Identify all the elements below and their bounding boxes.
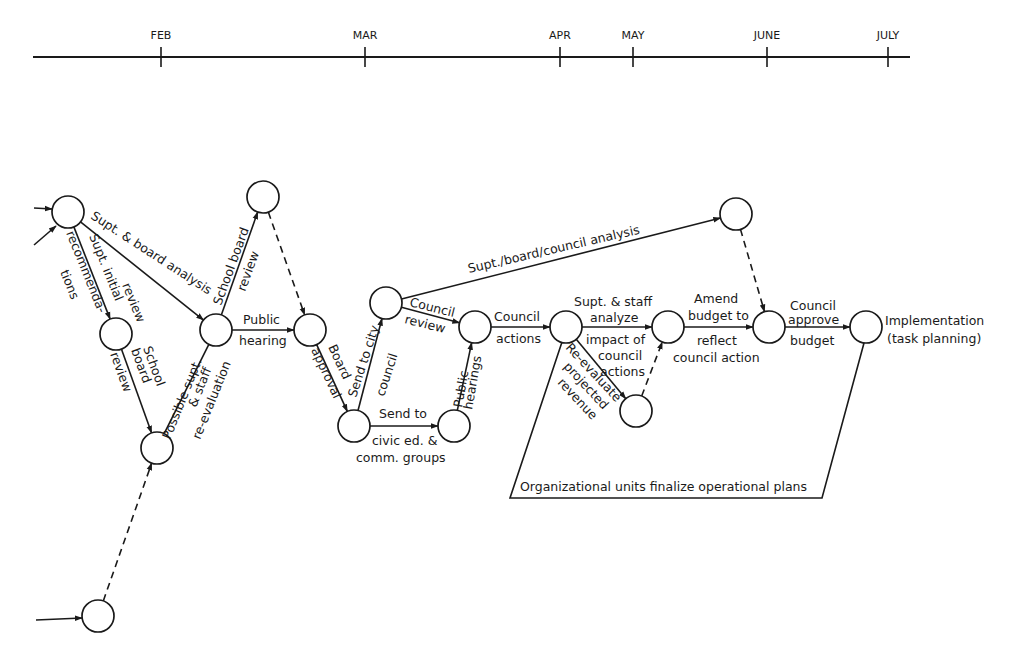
event-node-n10 [438,410,470,442]
label-impact-of: impact of [586,332,646,347]
event-node-n9 [370,287,402,319]
activity-edge [402,218,721,299]
edge-labels: Supt. & board analysis Supt. initial rev… [57,208,984,494]
dummy-activity-edge [268,212,304,315]
month-label: MAY [622,29,645,42]
label-council-actions-2: actions [496,331,541,346]
event-node-n7 [294,314,326,346]
dummy-activity-edge [103,463,151,601]
org-units-path [510,342,864,498]
incoming-arrow [34,226,56,245]
dummy-activity-edge [740,229,764,311]
event-node-n13 [720,198,752,230]
event-node-n8 [338,410,370,442]
month-label: MAR [353,29,378,42]
label-supt-staff: Supt. & staff [574,294,652,309]
label-analyze: analyze [590,310,639,325]
event-node-n11 [459,311,491,343]
month-label: JULY [876,29,900,42]
label-council-1: council [373,351,401,398]
timeline-axis: FEBMARAPRMAYJUNEJULY [33,29,910,67]
label-comm-groups: comm. groups [356,450,446,465]
event-node-n17 [850,311,882,343]
incoming-arrow [34,208,52,209]
label-council-action: council action [673,350,760,365]
label-amend: Amend [694,291,738,306]
label-council-approve-3: budget [790,333,834,348]
label-org-units: Organizational units finalize operationa… [520,479,807,494]
month-label: FEB [151,29,172,42]
incoming-arrow [36,618,82,620]
label-reflect: reflect [697,333,737,348]
label-public-hearings-2: hearings [460,354,484,410]
label-implementation: Implementation [885,313,984,328]
month-label: JUNE [753,29,781,42]
label-budget-to: budget to [688,308,749,323]
event-node-n12 [550,311,582,343]
label-public-hearing-1: Public [243,312,280,327]
label-council-approve-1: Council [790,298,836,313]
event-node-n14 [652,311,684,343]
event-node-n15 [620,395,652,427]
label-council-actions-1: Council [494,309,540,324]
event-node-n5 [200,314,232,346]
event-node-n4 [82,600,114,632]
budget-network-diagram: FEBMARAPRMAYJUNEJULY Supt. & board analy… [0,0,1033,648]
event-node-n2 [100,318,132,350]
label-task-planning: (task planning) [887,331,981,346]
label-council-2: council [598,348,642,363]
label-council-approve-2: approve [788,312,839,327]
event-node-n16 [753,311,785,343]
label-public-hearing-2: hearing [239,333,287,348]
event-node-n1 [52,196,84,228]
label-recommendations-2: tions [57,268,82,302]
month-label: APR [549,29,571,42]
incoming-arrows [34,208,82,620]
label-supt-initial-review: review [119,281,148,325]
event-node-n6 [247,181,279,213]
label-send-to: Send to [379,406,427,421]
label-supt-board-council-analysis: Supt./board/council analysis [466,222,641,276]
label-civic-ed: civic ed. & [372,433,438,448]
